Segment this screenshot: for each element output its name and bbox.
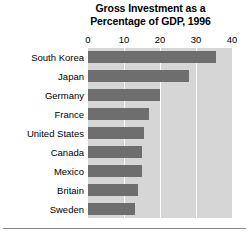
category-label: France	[0, 109, 84, 120]
x-tick-label-10: 10	[119, 34, 130, 45]
bar	[88, 127, 144, 139]
chart-figure: Gross Investment as a Percentage of GDP,…	[0, 0, 249, 234]
chart-title-line-2: Percentage of GDP, 1996	[58, 15, 243, 28]
category-label: Germany	[0, 90, 84, 101]
x-tick-label-30: 30	[191, 34, 202, 45]
bar	[88, 89, 160, 101]
bars-layer	[88, 48, 232, 218]
category-label: Sweden	[0, 204, 84, 215]
bar	[88, 108, 149, 120]
chart-title-line-1: Gross Investment as a	[58, 2, 243, 15]
category-label: Canada	[0, 147, 84, 158]
category-label: Japan	[0, 71, 84, 82]
plot-area	[88, 48, 232, 218]
category-label: United States	[0, 128, 84, 139]
category-label: Britain	[0, 185, 84, 196]
bottom-divider	[3, 228, 246, 229]
bar	[88, 203, 135, 215]
x-tick-label-40: 40	[227, 34, 238, 45]
category-label: South Korea	[0, 52, 84, 63]
category-axis-labels: South KoreaJapanGermanyFranceUnited Stat…	[0, 48, 84, 218]
gridline-40	[232, 48, 233, 218]
bar	[88, 165, 142, 177]
bar	[88, 146, 142, 158]
bar	[88, 51, 216, 63]
x-tick-label-20: 20	[155, 34, 166, 45]
bar	[88, 70, 189, 82]
x-tick-label-0: 0	[85, 34, 90, 45]
category-label: Mexico	[0, 166, 84, 177]
x-axis-tick-labels: 010203040	[88, 34, 232, 46]
bar	[88, 184, 138, 196]
chart-title: Gross Investment as a Percentage of GDP,…	[58, 2, 243, 27]
